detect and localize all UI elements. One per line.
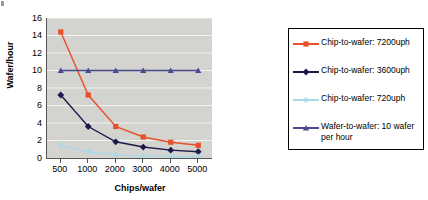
legend-marker-square-icon xyxy=(293,38,319,50)
y-tick-label: 0 xyxy=(18,154,42,163)
data-point xyxy=(86,92,91,97)
y-tick-label: 8 xyxy=(18,84,42,93)
x-tick-mark xyxy=(197,159,198,163)
x-tick-mark xyxy=(60,159,61,163)
y-tick-label: 12 xyxy=(18,49,42,58)
legend-label: Chip-to-wafer: 720uph xyxy=(319,93,405,104)
data-point xyxy=(303,97,309,103)
legend-item[interactable]: Chip-to-wafer: 720uph xyxy=(293,93,405,115)
data-point xyxy=(113,152,119,158)
data-point xyxy=(168,140,173,145)
plot-area xyxy=(46,18,212,159)
legend-item[interactable]: Wafer-to-wafer: 10 wafer per hour xyxy=(293,121,423,143)
data-point xyxy=(58,142,64,148)
wafer-throughput-chart: Wafer/hour Chips/wafer 0246810121416 500… xyxy=(0,0,428,200)
chart-legend: Chip-to-wafer: 7200uphChip-to-wafer: 360… xyxy=(288,28,424,150)
data-point xyxy=(140,153,146,158)
legend-item[interactable]: Chip-to-wafer: 3600uph xyxy=(293,65,410,87)
y-tick-label: 6 xyxy=(18,101,42,110)
data-point xyxy=(167,147,174,154)
legend-marker-diamond-icon xyxy=(293,66,319,78)
y-tick-label: 16 xyxy=(18,14,42,23)
data-point xyxy=(112,138,119,145)
series-line xyxy=(61,32,199,145)
legend-marker-triangle-icon xyxy=(293,122,319,134)
data-point xyxy=(58,29,63,34)
data-point xyxy=(196,143,201,148)
data-point xyxy=(303,69,310,76)
y-tick-label: 10 xyxy=(18,66,42,75)
y-tick-label: 14 xyxy=(18,31,42,40)
data-point xyxy=(141,134,146,139)
legend-marker-star-icon xyxy=(293,94,319,106)
legend-label: Chip-to-wafer: 3600uph xyxy=(319,65,410,76)
y-axis-title: Wafer/hour xyxy=(5,35,15,95)
x-tick-mark xyxy=(115,159,116,163)
y-tick-label: 4 xyxy=(18,119,42,128)
legend-label: Chip-to-wafer: 7200uph xyxy=(319,37,410,48)
scan-artifact xyxy=(1,1,4,6)
data-point xyxy=(303,41,308,46)
data-point xyxy=(113,124,118,129)
series-canvas xyxy=(47,18,212,158)
x-tick-mark xyxy=(142,159,143,163)
x-tick-mark xyxy=(87,159,88,163)
legend-label: Wafer-to-wafer: 10 wafer per hour xyxy=(319,121,423,142)
x-axis-title: Chips/wafer xyxy=(60,183,220,193)
data-point xyxy=(303,125,309,130)
x-tick-mark xyxy=(170,159,171,163)
x-tick-label: 5000 xyxy=(177,164,217,174)
y-tick-label: 2 xyxy=(18,136,42,145)
data-point xyxy=(140,144,147,151)
legend-item[interactable]: Chip-to-wafer: 7200uph xyxy=(293,37,410,59)
data-point xyxy=(85,149,91,155)
